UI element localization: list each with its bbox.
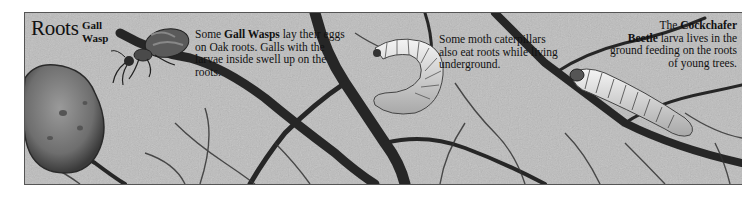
caption-text: Some: [195, 28, 224, 40]
gall-wasp-caption: Some Gall Wasps lay their eggs on Oak ro…: [195, 28, 345, 78]
panel-title: Roots: [31, 16, 79, 41]
moth-caption: Some moth caterpillars also eat roots wh…: [439, 33, 564, 71]
gall-wasp-label-line1: Gall: [82, 19, 108, 32]
gall-wasp-label-line2: Wasp: [82, 32, 108, 45]
caption-bold: Beetle: [628, 32, 658, 44]
gall-wasp-label: Gall Wasp: [82, 19, 108, 45]
caption-text: The: [659, 19, 680, 31]
caption-bold: Gall Wasps: [224, 28, 280, 40]
roots-illustration-panel: Roots Gall Wasp Some Gall Wasps lay thei…: [24, 12, 742, 185]
caption-bold: Cockchafer: [680, 19, 737, 31]
cockchafer-caption: The CockchaferBeetle larva lives in the …: [605, 19, 737, 69]
